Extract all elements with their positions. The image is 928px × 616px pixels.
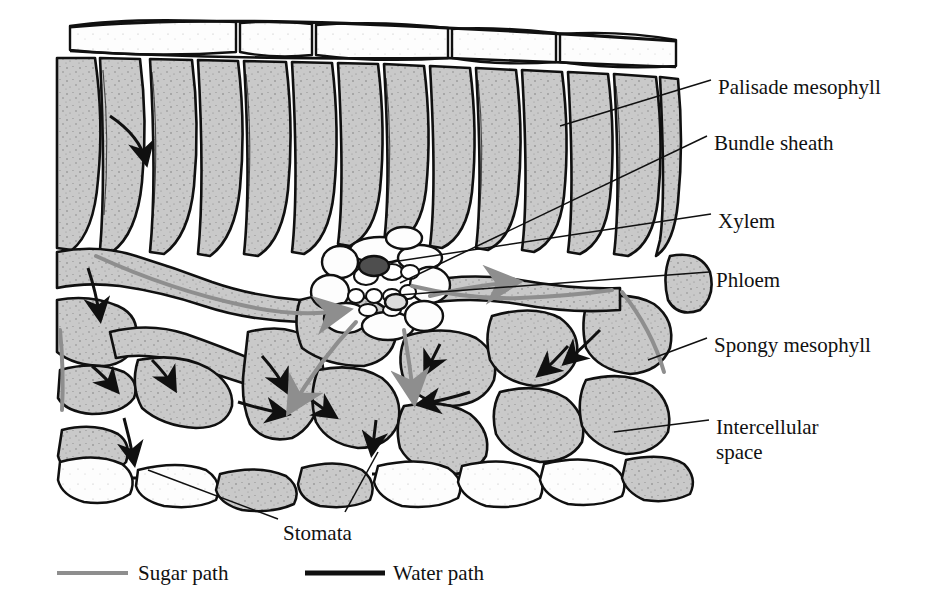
label-intercellular-space: Intercellular space [716, 415, 819, 465]
label-stomata: Stomata [283, 521, 352, 546]
lower-epidermis-layer [58, 457, 693, 511]
legend-label-sugar-path: Sugar path [138, 561, 228, 586]
label-phloem: Phloem [716, 268, 780, 293]
label-spongy-mesophyll: Spongy mesophyll [714, 333, 871, 358]
legend-label-water-path: Water path [393, 561, 484, 586]
phloem-cell [385, 294, 407, 310]
palisade-mesophyll-layer [57, 58, 681, 256]
xylem-cell [359, 256, 389, 276]
label-palisade-mesophyll: Palisade mesophyll [718, 75, 881, 100]
label-bundle-sheath: Bundle sheath [714, 131, 834, 156]
figure-canvas: Palisade mesophyll Bundle sheath Xylem P… [0, 0, 928, 616]
label-xylem: Xylem [718, 209, 775, 234]
